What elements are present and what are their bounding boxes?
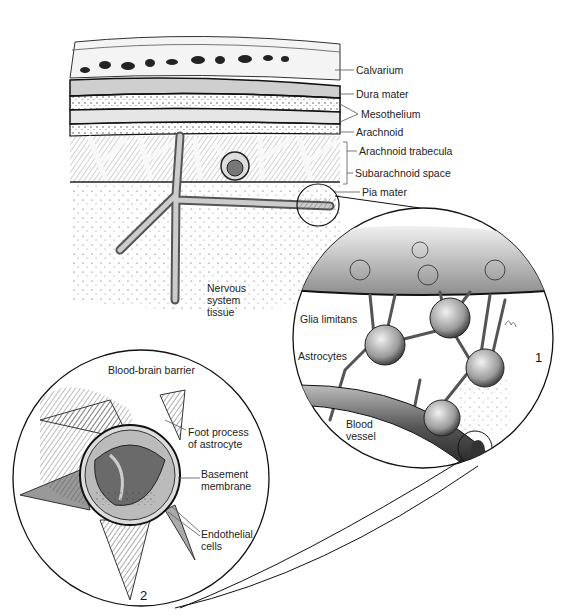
- label-glia-limitans: Glia limitans: [300, 313, 357, 325]
- endothelial-line-2: cells: [201, 540, 253, 552]
- inset-1-astrocytes: [290, 208, 560, 470]
- blood-vessel-line-1: Blood: [346, 418, 376, 430]
- foot-process-line-1: Foot process: [188, 426, 249, 438]
- anatomy-illustration: [0, 0, 575, 616]
- foot-process-line-2: of astrocyte: [188, 438, 249, 450]
- blood-vessel-line-2: vessel: [346, 430, 376, 442]
- label-calvarium: Calvarium: [356, 64, 403, 76]
- label-dura-mater: Dura mater: [356, 88, 409, 100]
- label-nervous-system-tissue: Nervous system tissue: [207, 282, 246, 318]
- label-blood-vessel: Blood vessel: [346, 418, 376, 442]
- label-subarachnoid-space: Subarachnoid space: [355, 167, 451, 179]
- label-arachnoid-trabecula: Arachnoid trabecula: [359, 145, 452, 157]
- label-astrocytes: Astrocytes: [298, 350, 347, 362]
- label-arachnoid: Arachnoid: [356, 126, 403, 138]
- label-foot-process: Foot process of astrocyte: [188, 426, 249, 450]
- basement-line-2: membrane: [201, 480, 251, 492]
- endothelial-line-1: Endothelial: [201, 528, 253, 540]
- tissue-line-1: Nervous: [207, 282, 246, 294]
- label-pia-mater: Pia mater: [362, 186, 407, 198]
- basement-line-1: Basement: [201, 468, 251, 480]
- tissue-line-2: system: [207, 294, 246, 306]
- meninges-section: [70, 36, 340, 310]
- label-mesothelium: Mesothelium: [361, 108, 421, 120]
- tissue-line-3: tissue: [207, 306, 246, 318]
- inset-2-number: 2: [140, 588, 147, 603]
- label-endothelial-cells: Endothelial cells: [201, 528, 253, 552]
- inset-2-title: Blood-brain barrier: [108, 364, 195, 376]
- label-basement-membrane: Basement membrane: [201, 468, 251, 492]
- inset-1-number: 1: [535, 350, 542, 365]
